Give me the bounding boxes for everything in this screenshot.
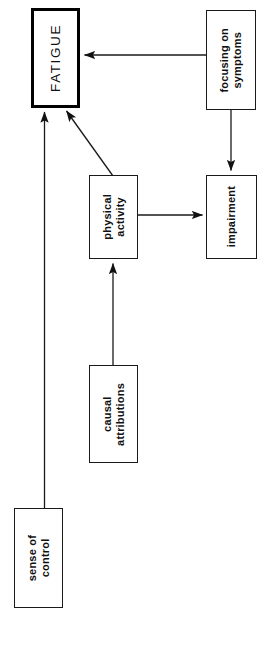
node-sense-of-control-label: sense of control — [26, 535, 52, 581]
node-physical-activity[interactable]: physical activity — [89, 175, 138, 259]
node-causal-attributions-label: causal attributions — [101, 383, 127, 446]
edge-physical-to-fatigue — [67, 111, 114, 176]
node-impairment[interactable]: impairment — [206, 175, 257, 259]
node-fatigue[interactable]: FATIGUE — [31, 8, 80, 108]
node-sense-of-control[interactable]: sense of control — [14, 508, 63, 608]
node-causal-attributions[interactable]: causal attributions — [89, 365, 138, 463]
diagram-canvas: FATIGUE focusing on symptoms physical ac… — [0, 0, 263, 645]
node-focusing-on-symptoms[interactable]: focusing on symptoms — [206, 10, 256, 110]
node-fatigue-label: FATIGUE — [48, 24, 64, 92]
node-focusing-on-symptoms-label: focusing on symptoms — [218, 28, 244, 93]
node-physical-activity-label: physical activity — [101, 194, 127, 240]
node-impairment-label: impairment — [225, 186, 238, 247]
